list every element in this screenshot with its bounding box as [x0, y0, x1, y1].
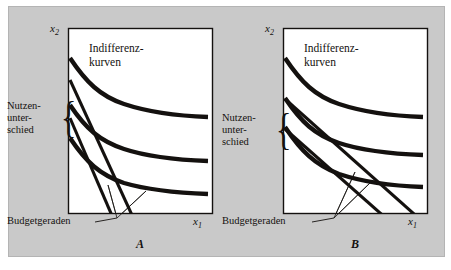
panel-b-indifference-curves-label: Indifferenz- kurven	[304, 42, 396, 69]
panel-b-utility-difference-label: Nutzen- unter- schied	[222, 112, 274, 149]
panel-b-y-axis-label: x2	[265, 22, 274, 38]
figure-container: x2 Indifferenz- kurven Nutzen- unter- sc…	[0, 0, 451, 270]
panel-b-letter: B	[351, 238, 359, 251]
panel-a-y-axis-label: x2	[50, 22, 59, 38]
panel-a-x-axis-label: x1	[193, 215, 202, 231]
panel-a-budget-lines-label: Budgetgeraden	[7, 215, 71, 227]
panel-b-x-axis-label: x1	[408, 215, 417, 231]
panel-a-letter: A	[136, 238, 144, 251]
panel-a-indifference-curves-label: Indifferenz- kurven	[89, 42, 181, 69]
panel-a-utility-difference-brace: {	[61, 96, 77, 140]
panel-b-budget-lines-label: Budgetgeraden	[222, 215, 286, 227]
panel-b-utility-difference-brace: {	[276, 108, 292, 152]
panel-b-leader-tip-3	[312, 218, 334, 222]
panel-a-utility-difference-label: Nutzen- unter- schied	[7, 100, 59, 137]
panel-a-leader-tip-3	[95, 218, 117, 222]
